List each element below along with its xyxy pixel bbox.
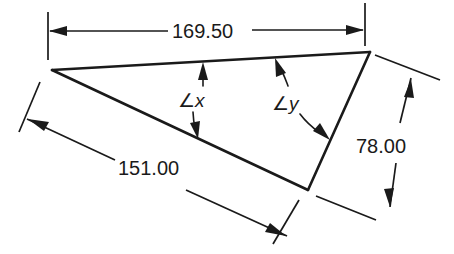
- arrowhead-right-bottom: [384, 188, 394, 207]
- angle-y-label: ∠y: [272, 93, 300, 114]
- extension-line-right-top: [375, 55, 440, 80]
- dimension-label-right: 78.00: [356, 135, 406, 157]
- arrowhead-long-end: [265, 223, 286, 236]
- dimension-top-169: 169.50: [48, 3, 365, 60]
- extension-line-right-bottom: [316, 196, 376, 220]
- angle-y-annotation: ∠y: [272, 58, 330, 140]
- angle-y-variable: y: [287, 93, 300, 114]
- geometry-diagram-canvas: 169.50 151.00: [0, 0, 454, 254]
- angle-x-annotation: ∠x: [178, 62, 208, 139]
- dimension-label-long: 151.00: [118, 157, 179, 179]
- triangle-edge-right: [308, 52, 370, 190]
- extension-line-long-end: [273, 200, 299, 244]
- arrowhead-top-left: [49, 26, 67, 36]
- angle-x-label: ∠x: [178, 90, 206, 111]
- angle-y-symbol: ∠: [272, 93, 289, 114]
- angle-x-symbol: ∠: [178, 90, 195, 111]
- triangle-outline: [52, 52, 370, 190]
- angle-x-arrowhead-up: [198, 62, 208, 80]
- dimension-label-top: 169.50: [172, 20, 233, 42]
- dimension-long-151: 151.00: [19, 82, 299, 244]
- arrowhead-long-start: [28, 119, 49, 131]
- triangle-figure: 169.50 151.00: [0, 0, 454, 254]
- arrowhead-right-top: [404, 79, 414, 98]
- triangle-edge-top: [52, 52, 370, 70]
- angle-y-arrowhead-up: [275, 58, 286, 77]
- angle-x-variable: x: [194, 90, 206, 111]
- triangle-edge-long: [52, 70, 308, 190]
- angle-y-arrowhead-down: [313, 123, 330, 140]
- arrowhead-top-right: [346, 25, 364, 35]
- dimension-right-78: 78.00: [316, 55, 440, 220]
